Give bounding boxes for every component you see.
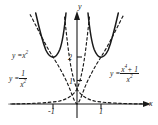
math-figure: y x 2 1 -1 1 y =x2 y =1x2 y =x4+ 1x2 xyxy=(0,0,158,125)
curve-label-reciprocal: y =1x2 xyxy=(9,70,27,88)
x-axis-label: x xyxy=(149,100,153,108)
curve-label-main: y =x4+ 1x2 xyxy=(110,64,139,84)
curve-label-main-denominator: x2 xyxy=(120,74,139,83)
graph-canvas xyxy=(0,0,158,125)
curve-label-parabola-lhs: y = xyxy=(12,51,22,60)
y-tick-label-2: 2 xyxy=(68,54,72,62)
curve-label-reciprocal-denominator: x2 xyxy=(19,79,27,88)
x-tick-label-minus-1: -1 xyxy=(48,108,55,116)
y-axis-label: y xyxy=(78,3,82,11)
curve-label-main-fraction: x4+ 1x2 xyxy=(120,64,139,84)
x-tick-label-1: 1 xyxy=(99,108,103,116)
curve-label-reciprocal-denominator-exponent: 2 xyxy=(24,78,27,84)
y-tick-label-1: 1 xyxy=(69,78,73,86)
curve-label-main-numerator-tail: + 1 xyxy=(127,65,138,74)
curve-label-parabola-exponent: 2 xyxy=(26,49,29,55)
curve-label-parabola: y =x2 xyxy=(12,50,28,59)
curve-label-reciprocal-lhs: y = xyxy=(9,74,19,83)
curve-label-reciprocal-fraction: 1x2 xyxy=(19,70,27,88)
curve-label-main-lhs: y = xyxy=(110,69,120,78)
curve-label-main-denominator-exponent: 2 xyxy=(130,73,133,79)
